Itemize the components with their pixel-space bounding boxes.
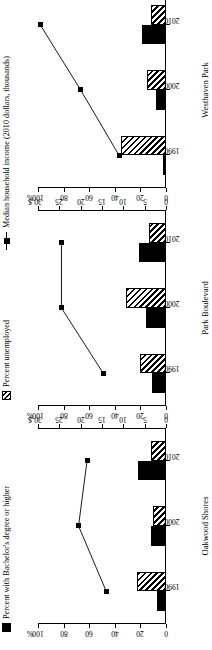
x-axis-tick-label: 2000 <box>164 517 179 526</box>
x-axis-tick-label: 1990 <box>164 146 179 155</box>
median-income-data-point <box>101 371 106 376</box>
left-axis-tick <box>166 406 167 410</box>
left-axis-tick <box>115 624 116 628</box>
hatched-square-swatch-icon <box>2 391 11 400</box>
panel-plot-area: 100806040200%302520151050$199020002010 <box>38 210 166 406</box>
left-axis-tick-label: 0 <box>159 629 173 637</box>
left-axis-unit-label: % <box>23 193 37 201</box>
three-panel-chart-figure: Percent with Bachelor's degree or higher… <box>0 0 212 650</box>
left-axis-tick <box>38 624 39 628</box>
median-income-data-point <box>38 22 43 27</box>
legend-item-label: Percent with Bachelor's degree or higher <box>2 486 11 619</box>
left-axis-tick <box>166 624 167 628</box>
left-axis-tick-label: 80 <box>57 411 71 419</box>
x-axis-tick-label: 2010 <box>164 16 179 25</box>
median-income-data-point <box>59 306 64 311</box>
right-axis-tick-label: 15 <box>95 415 109 423</box>
chart-panel: 100806040200%302520151050$199020002010Pa… <box>22 210 212 406</box>
panel-plot-area: 100806040200%302520151050$199020002010 <box>38 0 166 188</box>
median-income-data-point <box>59 240 64 245</box>
left-axis-tick-label: 20 <box>133 411 147 419</box>
chart-panel: 100806040200%302520151050$199020002010Oa… <box>22 428 212 624</box>
median-income-line-series <box>38 0 166 188</box>
left-axis-tick <box>64 188 65 192</box>
panel-title: Westhaven Park <box>200 0 210 188</box>
left-axis-tick <box>140 188 141 192</box>
legend-item: Percent with Bachelor's degree or higher <box>2 486 11 632</box>
left-axis-tick <box>64 406 65 410</box>
left-axis-tick <box>115 406 116 410</box>
chart-panels: 100806040200%302520151050$199020002010Oa… <box>22 0 212 650</box>
left-axis-unit-label: % <box>23 411 37 419</box>
median-income-data-point <box>117 153 122 158</box>
panel-title: Park Boulevard <box>200 210 210 406</box>
left-axis-tick-label: 60 <box>82 193 96 201</box>
left-axis-tick-label: 80 <box>57 193 71 201</box>
left-axis-tick <box>89 624 90 628</box>
legend-item-label: Median household income (2010 dollars, t… <box>2 56 11 228</box>
panel-title: Oakwood Shores <box>200 428 210 624</box>
x-axis-tick-label: 2000 <box>164 81 179 90</box>
left-axis-tick-label: 40 <box>108 193 122 201</box>
left-axis-tick-label: 0 <box>159 411 173 419</box>
right-axis-tick <box>166 206 167 210</box>
legend-item: Median household income (2010 dollars, t… <box>2 56 11 250</box>
median-income-data-point <box>76 524 81 529</box>
right-axis-tick <box>166 424 167 428</box>
left-axis-tick <box>140 624 141 628</box>
panel-plot-area: 100806040200%302520151050$199020002010 <box>38 428 166 624</box>
median-income-line <box>79 461 107 592</box>
left-axis-tick <box>115 188 116 192</box>
median-income-line <box>61 243 103 374</box>
median-income-line-series <box>38 428 166 624</box>
line-square-marker-icon <box>2 232 11 250</box>
chart-panel: 100806040200%302520151050$199020002010We… <box>22 0 212 188</box>
x-axis-tick-label: 1990 <box>164 582 179 591</box>
median-income-data-point <box>78 88 83 93</box>
left-axis-tick <box>38 406 39 410</box>
left-axis-tick <box>166 188 167 192</box>
median-income-line-series <box>38 210 166 406</box>
left-axis-tick <box>89 406 90 410</box>
left-axis-tick <box>89 188 90 192</box>
right-axis-tick-label: 15 <box>95 197 109 205</box>
legend-item-label: Percent unemployed <box>2 320 11 387</box>
median-income-data-point <box>104 589 109 594</box>
left-axis-tick-label: 0 <box>159 193 173 201</box>
rotated-figure-wrapper: Percent with Bachelor's degree or higher… <box>0 0 212 650</box>
left-axis-unit-label: % <box>23 629 37 637</box>
x-axis-tick-label: 2010 <box>164 452 179 461</box>
black-square-swatch-icon <box>2 623 11 632</box>
left-axis-tick-label: 60 <box>82 629 96 637</box>
left-axis-tick-label: 40 <box>108 629 122 637</box>
left-axis-tick <box>64 624 65 628</box>
left-axis-tick <box>140 406 141 410</box>
left-axis-tick <box>38 188 39 192</box>
left-axis-tick-label: 20 <box>133 629 147 637</box>
left-axis-tick-label: 40 <box>108 411 122 419</box>
x-axis-tick-label: 1990 <box>164 364 179 373</box>
left-axis-tick-label: 60 <box>82 411 96 419</box>
chart-legend: Percent with Bachelor's degree or higher… <box>0 0 22 650</box>
x-axis-tick-label: 2010 <box>164 234 179 243</box>
legend-item: Percent unemployed <box>2 320 11 400</box>
left-axis-tick-label: 20 <box>133 193 147 201</box>
left-axis-tick-label: 80 <box>57 629 71 637</box>
median-income-data-point <box>85 458 90 463</box>
x-axis-tick-label: 2000 <box>164 299 179 308</box>
